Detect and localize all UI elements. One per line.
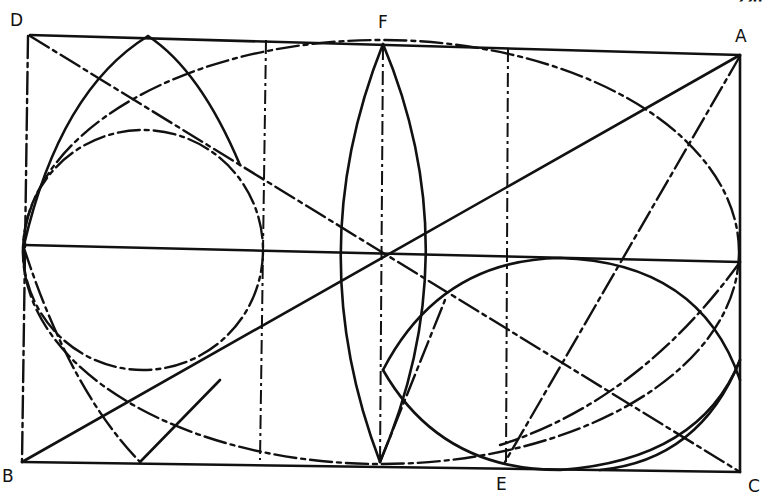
arc-top-left-down xyxy=(148,36,240,165)
label-D: D xyxy=(10,12,23,29)
right-circle-lower-arc xyxy=(383,360,740,470)
label-A: A xyxy=(735,28,747,45)
label-B: B xyxy=(2,468,14,485)
geometric-construction-diagram xyxy=(0,0,774,496)
label-F: F xyxy=(378,14,388,31)
arc-left-lower xyxy=(24,248,140,462)
arc-right-to-bottom xyxy=(500,262,740,445)
label-C: C xyxy=(748,478,760,495)
vertical-guide-center-FE xyxy=(380,46,383,464)
short-arc-bottom-left xyxy=(140,380,220,462)
label-E: E xyxy=(496,476,507,493)
arc-left-upper xyxy=(24,36,148,245)
vertical-guide-right xyxy=(506,48,508,464)
